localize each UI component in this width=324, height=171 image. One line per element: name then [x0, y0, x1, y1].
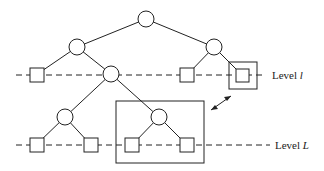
- internal-node: [206, 39, 222, 55]
- level-L-label: Level L: [275, 139, 309, 151]
- leaf-node: [30, 68, 44, 82]
- leaf-node: [180, 138, 194, 152]
- tree-diagram: Level l Level L: [0, 0, 324, 171]
- leaf-node: [125, 138, 139, 152]
- internal-node: [103, 66, 119, 82]
- internal-node: [151, 109, 167, 125]
- leaf-node: [84, 138, 98, 152]
- leaf-node: [180, 68, 194, 82]
- level-l-label: Level l: [272, 69, 303, 81]
- leaf-node: [236, 69, 249, 82]
- internal-node: [69, 39, 85, 55]
- internal-node: [57, 109, 73, 125]
- leaf-node: [30, 138, 44, 152]
- root-node: [138, 11, 154, 27]
